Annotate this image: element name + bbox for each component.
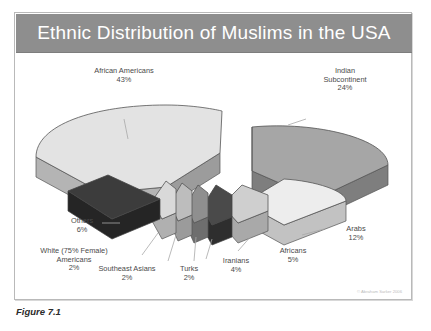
label-white-americans: White (75% Female) Americans 2% [24, 247, 124, 273]
label-turks: Turks 2% [168, 265, 210, 282]
attribution-text: © Abraham Sarker 2006 [357, 289, 402, 294]
plot-area: African Americans 43% Indian Subcontinen… [16, 53, 412, 300]
chart-title: Ethnic Distribution of Muslims in the US… [37, 22, 391, 44]
label-others: Others 6% [56, 217, 108, 234]
chart-frame: Ethnic Distribution of Muslims in the US… [14, 12, 412, 300]
figure-container: Ethnic Distribution of Muslims in the US… [14, 12, 412, 300]
label-iranians: Iranians 4% [212, 257, 260, 274]
figure-caption: Figure 7.1 [16, 306, 61, 317]
label-africans: Africans 5% [268, 247, 318, 264]
label-african-americans: African Americans 43% [78, 67, 170, 84]
label-arabs: Arabs 12% [330, 225, 382, 242]
label-indian-subcontinent: Indian Subcontinent 24% [304, 67, 386, 93]
chart-title-banner: Ethnic Distribution of Muslims in the US… [16, 14, 412, 53]
